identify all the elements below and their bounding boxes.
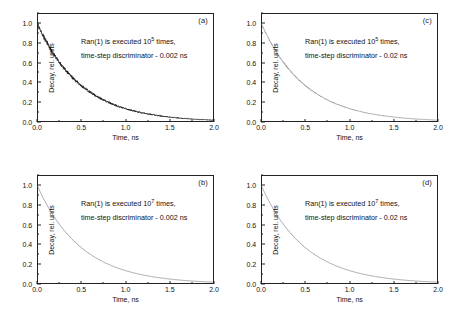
x-tick-mark-minor xyxy=(147,282,148,284)
x-tick-label: 0.0 xyxy=(256,124,266,131)
x-tick-label: 1.0 xyxy=(121,124,131,131)
x-tick-mark-minor xyxy=(327,282,328,284)
x-tick-mark-minor xyxy=(371,282,372,284)
x-tick-label: 0.0 xyxy=(32,124,42,131)
annotation-text-post: times, xyxy=(154,199,175,208)
y-tick-mark xyxy=(37,224,41,225)
panel-label-d: (d) xyxy=(422,178,432,187)
y-tick-mark xyxy=(37,264,41,265)
plot-area-b: (b) Ran(1) is executed 107 times, time-s… xyxy=(37,175,214,284)
x-tick-label: 0.0 xyxy=(256,286,266,293)
y-tick-label: 0.8 xyxy=(23,39,36,46)
x-tick-label: 1.5 xyxy=(389,286,399,293)
x-tick-label: 0.0 xyxy=(32,286,42,293)
decay-curve-a xyxy=(37,13,214,122)
y-tick-mark xyxy=(37,204,41,205)
x-tick-mark xyxy=(393,281,394,285)
panel-annotation-d: Ran(1) is executed 107 times, time-step … xyxy=(305,197,407,225)
annotation-line-2: time-step discriminator - 0.002 ns xyxy=(81,211,187,225)
x-tick-mark-minor xyxy=(371,120,372,122)
annotation-text-pre: Ran(1) is executed 10 xyxy=(81,199,151,208)
x-axis-label-a: Time, ns xyxy=(37,134,214,141)
y-tick-label: 0.6 xyxy=(247,59,260,66)
x-tick-mark xyxy=(37,281,38,285)
y-tick-mark-minor xyxy=(261,32,263,33)
x-tick-label: 0.5 xyxy=(76,124,86,131)
y-tick-mark xyxy=(37,284,41,285)
x-tick-mark xyxy=(438,119,439,123)
x-tick-mark xyxy=(214,119,215,123)
y-tick-mark-minor xyxy=(261,72,263,73)
y-tick-mark xyxy=(261,284,265,285)
y-tick-mark-minor xyxy=(37,175,39,176)
y-tick-mark xyxy=(37,244,41,245)
panel-annotation-b: Ran(1) is executed 107 times, time-step … xyxy=(81,197,187,225)
decay-curve-c xyxy=(261,13,438,122)
panel-b: (b) Ran(1) is executed 107 times, time-s… xyxy=(0,162,225,324)
y-tick-mark-minor xyxy=(37,234,39,235)
x-axis-label-c: Time, ns xyxy=(261,134,438,141)
x-tick-label: 1.0 xyxy=(345,124,355,131)
annotation-line-1: Ran(1) is executed 105 times, xyxy=(305,35,407,49)
y-tick-mark-minor xyxy=(261,112,263,113)
x-tick-mark-minor xyxy=(191,120,192,122)
annotation-text-post: times, xyxy=(378,199,399,208)
x-tick-mark xyxy=(438,281,439,285)
y-tick-mark xyxy=(261,122,265,123)
y-tick-mark xyxy=(37,42,41,43)
y-tick-label: 0.6 xyxy=(23,221,36,228)
x-tick-mark xyxy=(214,281,215,285)
x-tick-mark xyxy=(305,281,306,285)
y-tick-label: 0.8 xyxy=(247,201,260,208)
y-tick-label: 0.4 xyxy=(247,241,260,248)
y-tick-mark xyxy=(261,22,265,23)
y-tick-label: 1.0 xyxy=(23,19,36,26)
y-tick-mark-minor xyxy=(37,214,39,215)
y-tick-mark-minor xyxy=(261,175,263,176)
decay-curve-d xyxy=(261,175,438,284)
x-tick-mark xyxy=(125,119,126,123)
panel-annotation-c: Ran(1) is executed 105 times, time-step … xyxy=(305,35,407,63)
x-tick-mark xyxy=(261,281,262,285)
annotation-text-post: times, xyxy=(154,37,175,46)
y-tick-mark xyxy=(261,244,265,245)
y-tick-label: 1.0 xyxy=(247,181,260,188)
y-tick-mark xyxy=(37,22,41,23)
y-tick-label: 0.8 xyxy=(23,201,36,208)
x-tick-label: 0.5 xyxy=(300,124,310,131)
x-tick-label: 2.0 xyxy=(209,124,219,131)
y-tick-mark xyxy=(261,62,265,63)
y-tick-mark-minor xyxy=(261,92,263,93)
x-tick-mark-minor xyxy=(283,282,284,284)
x-tick-label: 2.0 xyxy=(209,286,219,293)
x-tick-mark xyxy=(349,281,350,285)
annotation-line-1: Ran(1) is executed 105 times, xyxy=(81,35,187,49)
x-tick-mark xyxy=(169,281,170,285)
panel-label-a: (a) xyxy=(198,16,208,25)
y-tick-mark-minor xyxy=(37,194,39,195)
y-tick-mark-minor xyxy=(37,52,39,53)
y-tick-mark xyxy=(261,42,265,43)
y-axis-label-b: Decay, rel. units xyxy=(48,187,55,273)
y-tick-mark xyxy=(261,184,265,185)
x-tick-mark-minor xyxy=(103,282,104,284)
panel-c: (c) Ran(1) is executed 105 times, time-s… xyxy=(225,0,449,162)
y-tick-label: 0.2 xyxy=(247,99,260,106)
y-tick-mark-minor xyxy=(37,72,39,73)
x-tick-mark-minor xyxy=(283,120,284,122)
y-tick-label: 0.6 xyxy=(247,221,260,228)
annotation-text-pre: Ran(1) is executed 10 xyxy=(305,37,375,46)
y-tick-label: 0.4 xyxy=(23,79,36,86)
y-tick-mark xyxy=(37,122,41,123)
panel-annotation-a: Ran(1) is executed 105 times, time-step … xyxy=(81,35,187,63)
x-tick-label: 2.0 xyxy=(433,286,443,293)
y-tick-label: 0.6 xyxy=(23,59,36,66)
y-tick-mark-minor xyxy=(261,234,263,235)
y-tick-mark-minor xyxy=(37,13,39,14)
y-tick-label: 0.4 xyxy=(247,79,260,86)
x-tick-label: 0.5 xyxy=(76,286,86,293)
y-axis-label-d: Decay, rel. units xyxy=(272,187,279,273)
x-tick-label: 1.0 xyxy=(345,286,355,293)
x-tick-mark-minor xyxy=(59,120,60,122)
annotation-line-2: time-step discriminator - 0.002 ns xyxy=(81,49,187,63)
